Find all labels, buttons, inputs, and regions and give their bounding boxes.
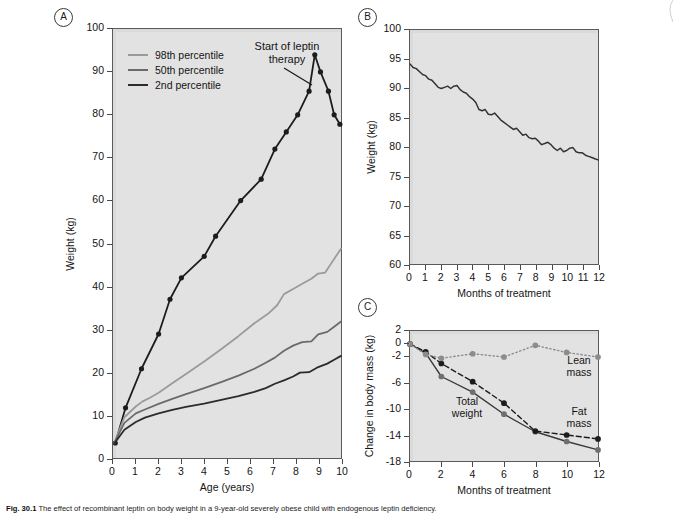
panel-b-xlabel: Months of treatment: [409, 287, 599, 299]
panel-b-ytick-100: 100: [373, 22, 401, 34]
panel-a-xtick-1: 1: [123, 465, 147, 477]
panel-b-xtick-mark: [409, 265, 410, 270]
legend-swatch-98th: [128, 54, 148, 56]
panel-a-xtick-6: 6: [238, 465, 262, 477]
panel-a-ytick-mark: [107, 157, 112, 158]
panel-a-xtick-mark: [250, 459, 251, 464]
panel-b-xtick-mark: [457, 265, 458, 270]
panel-c-ytick-0: 0: [373, 336, 401, 348]
panel-a-ytick-mark: [107, 330, 112, 331]
label-fat-mass: Fat mass: [556, 405, 602, 429]
panel-c-xtick-8: 8: [524, 468, 548, 480]
panel-c-ytick-2: 2: [373, 323, 401, 335]
legend-swatch-2nd: [128, 84, 148, 86]
panel-c-xtick-mark: [409, 462, 410, 467]
panel-b-ytick-mark: [404, 29, 409, 30]
panel-a-xlabel: Age (years): [112, 481, 342, 493]
panel-c-ytick--14: -14: [373, 429, 401, 441]
annotation-leader-line: [280, 66, 324, 90]
panel-c-plot-area: [409, 330, 599, 462]
label-lean-mass-line2: mass: [556, 366, 602, 378]
panel-c-xtick-6: 6: [492, 468, 516, 480]
panel-a-chart-canvas: [113, 29, 341, 458]
panel-c-ytick--6: -6: [373, 376, 401, 388]
panel-c-ytick-mark: [404, 356, 409, 357]
panel-b-ytick-mark: [404, 206, 409, 207]
panel-c-xtick-mark: [472, 462, 473, 467]
panel-a-xtick-0: 0: [100, 465, 124, 477]
panel-b-ytick-95: 95: [373, 52, 401, 64]
panel-a-legend: 98th percentile 50th percentile 2nd perc…: [128, 47, 224, 92]
panel-b-ytick-mark: [404, 59, 409, 60]
panel-badge-a: A: [54, 8, 73, 27]
panel-a-xtick-3: 3: [169, 465, 193, 477]
panel-c-xtick-mark: [567, 462, 568, 467]
panel-b-ytick-80: 80: [373, 140, 401, 152]
panel-a-xtick-2: 2: [146, 465, 170, 477]
panel-b-ytick-mark: [404, 147, 409, 148]
panel-a-xtick-mark: [181, 459, 182, 464]
panel-a-ytick-60: 60: [76, 193, 104, 205]
panel-a-ytick-40: 40: [76, 280, 104, 292]
panel-c-ytick--10: -10: [373, 402, 401, 414]
panel-c-xtick-mark: [599, 462, 600, 467]
panel-b-xtick-mark: [520, 265, 521, 270]
annotation-start-of-leptin: Start of leptin therapy: [228, 40, 346, 66]
panel-a-xtick-8: 8: [284, 465, 308, 477]
panel-a-ytick-30: 30: [76, 323, 104, 335]
panel-badge-c: C: [358, 298, 377, 317]
panel-a-ytick-mark: [107, 287, 112, 288]
panel-c-xtick-4: 4: [460, 468, 484, 480]
panel-c-ytick-mark: [404, 343, 409, 344]
label-fat-mass-line1: Fat: [556, 405, 602, 417]
panel-c-ytick-mark: [404, 409, 409, 410]
panel-a-ylabel: Weight (kg): [64, 208, 76, 280]
panel-a-ytick-mark: [107, 244, 112, 245]
panel-c-xtick-mark: [441, 462, 442, 467]
panel-a-xtick-7: 7: [261, 465, 285, 477]
legend-label-2nd: 2nd percentile: [155, 79, 221, 91]
panel-b-ytick-mark: [404, 177, 409, 178]
panel-b-xtick-mark: [472, 265, 473, 270]
panel-a-xtick-mark: [296, 459, 297, 464]
panel-b-chart-canvas: [410, 30, 598, 264]
legend-item-2nd: 2nd percentile: [128, 77, 224, 92]
panel-a-xtick-mark: [227, 459, 228, 464]
panel-b-xtick-mark: [552, 265, 553, 270]
panel-c-ytick--2: -2: [373, 349, 401, 361]
panel-c-xtick-2: 2: [429, 468, 453, 480]
panel-a-xtick-mark: [135, 459, 136, 464]
panel-b-ytick-90: 90: [373, 81, 401, 93]
panel-c-xtick-mark: [536, 462, 537, 467]
label-total-weight: Total weight: [440, 395, 494, 419]
panel-a-ytick-100: 100: [76, 21, 104, 33]
figure-caption: Fig. 30.1 The effect of recombinant lept…: [6, 504, 673, 513]
legend-item-50th: 50th percentile: [128, 62, 224, 77]
legend-label-98th: 98th percentile: [155, 49, 224, 61]
panel-b-xtick-mark: [488, 265, 489, 270]
panel-a-ytick-0: 0: [76, 452, 104, 464]
panel-c-chart-canvas: [410, 331, 598, 461]
panel-a-ytick-90: 90: [76, 64, 104, 76]
panel-a-ytick-mark: [107, 28, 112, 29]
annotation-start-of-leptin-line1: Start of leptin: [228, 40, 346, 53]
panel-a-ytick-10: 10: [76, 409, 104, 421]
panel-a-xtick-5: 5: [215, 465, 239, 477]
panel-a-xtick-mark: [204, 459, 205, 464]
panel-a-xtick-mark: [112, 459, 113, 464]
figure-caption-text: The effect of recombinant leptin on body…: [38, 504, 436, 513]
panel-c-xtick-0: 0: [397, 468, 421, 480]
panel-c-xtick-mark: [504, 462, 505, 467]
panel-a-ytick-mark: [107, 71, 112, 72]
figure-caption-number: Fig. 30.1: [6, 504, 36, 513]
panel-b-ytick-65: 65: [373, 229, 401, 241]
panel-c-ytick-mark: [404, 383, 409, 384]
panel-b-xtick-mark: [536, 265, 537, 270]
page-corner-curl: [663, 0, 673, 24]
panel-b-xtick-mark: [425, 265, 426, 270]
panel-a-plot-area: [112, 28, 342, 459]
panel-b-xtick-mark: [583, 265, 584, 270]
panel-a-ytick-80: 80: [76, 107, 104, 119]
annotation-start-of-leptin-line2: therapy: [228, 53, 346, 66]
panel-b-xtick-mark: [599, 265, 600, 270]
